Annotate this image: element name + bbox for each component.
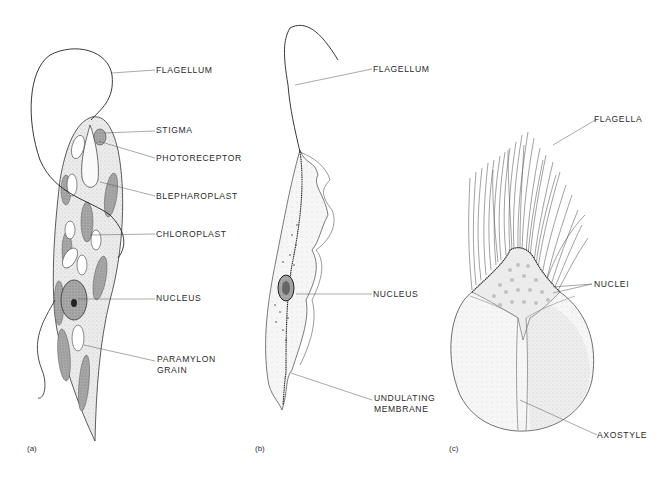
label-nuclei: NUCLEI bbox=[594, 279, 629, 290]
panel-label-a: (a) bbox=[27, 444, 37, 453]
panel-label-b: (b) bbox=[255, 444, 265, 453]
label-blepharoplast: BLEPHAROPLAST bbox=[156, 191, 238, 202]
nucleolus bbox=[71, 299, 77, 307]
label-flagella: FLAGELLA bbox=[594, 114, 642, 125]
label-stigma: STIGMA bbox=[156, 125, 193, 136]
label-axostyle: AXOSTYLE bbox=[597, 430, 647, 441]
flagellum-line-b bbox=[284, 25, 338, 152]
label-flagellum-a: FLAGELLUM bbox=[156, 65, 213, 76]
nucleolus-b bbox=[282, 281, 290, 295]
label-nucleus-a: NUCLEUS bbox=[156, 293, 201, 304]
label-paramylon: PARAMYLON bbox=[157, 354, 216, 365]
label-membrane: MEMBRANE bbox=[374, 404, 428, 415]
trypanosoma-drawing bbox=[266, 25, 372, 410]
trailing-flagellum bbox=[37, 300, 55, 398]
label-undulating: UNDULATING bbox=[374, 393, 435, 404]
label-flagellum-b: FLAGELLUM bbox=[373, 64, 430, 75]
cell-body-b bbox=[266, 150, 328, 410]
euglena-drawing bbox=[31, 49, 155, 441]
trichonympha-drawing bbox=[451, 119, 597, 435]
label-chloroplast: CHLOROPLAST bbox=[156, 229, 227, 240]
panel-label-c: (c) bbox=[449, 444, 458, 453]
label-grain: GRAIN bbox=[157, 365, 187, 376]
label-photoreceptor: PHOTORECEPTOR bbox=[156, 153, 242, 164]
label-nucleus-b: NUCLEUS bbox=[373, 289, 418, 300]
diagram-drawing bbox=[0, 0, 664, 479]
protozoa-diagram: FLAGELLUM STIGMA PHOTORECEPTOR BLEPHAROP… bbox=[0, 0, 664, 479]
